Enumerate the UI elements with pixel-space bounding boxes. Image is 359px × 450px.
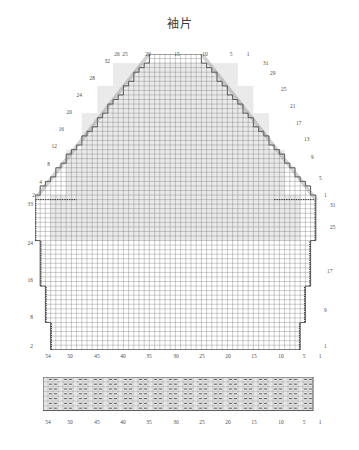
tick-right-lower-3: 17 bbox=[327, 269, 332, 274]
tick-top-1: 25 bbox=[122, 52, 127, 57]
tick-top-3: 15 bbox=[174, 52, 179, 57]
tick-bottom-main-9: 10 bbox=[278, 354, 283, 359]
tick-right-upper-7: 5 bbox=[319, 176, 322, 181]
tick-bottom-main-3: 40 bbox=[120, 354, 125, 359]
tick-bottom-rib-7: 20 bbox=[225, 420, 230, 425]
tick-bottom-main-8: 15 bbox=[251, 354, 256, 359]
tick-left-upper-7: 4 bbox=[39, 180, 42, 185]
tick-bottom-main-0: 54 bbox=[45, 354, 50, 359]
tick-right-upper-6: 9 bbox=[311, 155, 314, 160]
tick-right-lower-1: 31 bbox=[330, 203, 335, 208]
tick-left-upper-2: 24 bbox=[77, 93, 82, 98]
tick-bottom-main-11: 1 bbox=[319, 354, 322, 359]
tick-right-upper-4: 17 bbox=[296, 121, 301, 126]
tick-bottom-rib-10: 5 bbox=[303, 420, 306, 425]
tick-right-upper-5: 13 bbox=[304, 137, 309, 142]
page-title: 袖片 bbox=[0, 14, 359, 32]
tick-bottom-main-1: 50 bbox=[67, 354, 72, 359]
tick-left-lower-3: 8 bbox=[30, 315, 33, 320]
tick-left-upper-6: 8 bbox=[47, 162, 50, 167]
tick-right-lower-2: 25 bbox=[330, 225, 335, 230]
tick-left-upper-4: 16 bbox=[59, 127, 64, 132]
tick-left-lower-1: 24 bbox=[28, 241, 33, 246]
tick-left-upper-3: 20 bbox=[67, 110, 72, 115]
tick-right-upper-2: 25 bbox=[281, 87, 286, 92]
tick-bottom-rib-3: 40 bbox=[120, 420, 125, 425]
sleeve-pattern-chart-page: 袖片 2625201510513228242016128423129252117… bbox=[0, 0, 359, 450]
tick-bottom-main-10: 5 bbox=[303, 354, 306, 359]
tick-right-upper-0: 31 bbox=[263, 61, 268, 66]
tick-bottom-rib-2: 45 bbox=[94, 420, 99, 425]
tick-right-lower-0: 1 bbox=[324, 193, 327, 198]
tick-right-upper-1: 29 bbox=[270, 71, 275, 76]
tick-right-lower-4: 9 bbox=[324, 308, 327, 313]
tick-left-upper-5: 12 bbox=[52, 144, 57, 149]
tick-bottom-rib-9: 10 bbox=[278, 420, 283, 425]
tick-left-upper-8: 2 bbox=[32, 193, 35, 198]
tick-bottom-main-7: 20 bbox=[225, 354, 230, 359]
tick-bottom-rib-4: 35 bbox=[146, 420, 151, 425]
tick-left-lower-4: 2 bbox=[30, 344, 33, 349]
tick-right-lower-5: 1 bbox=[324, 344, 327, 349]
tick-bottom-rib-1: 50 bbox=[67, 420, 72, 425]
tick-top-0: 26 bbox=[114, 52, 119, 57]
tick-bottom-main-5: 30 bbox=[173, 354, 178, 359]
tick-left-lower-0: 33 bbox=[28, 202, 33, 207]
tick-bottom-main-2: 45 bbox=[94, 354, 99, 359]
tick-left-upper-0: 32 bbox=[105, 59, 110, 64]
tick-top-6: 1 bbox=[247, 52, 250, 57]
tick-bottom-rib-0: 54 bbox=[45, 420, 50, 425]
tick-bottom-rib-11: 1 bbox=[319, 420, 322, 425]
tick-bottom-main-4: 35 bbox=[146, 354, 151, 359]
tick-left-upper-1: 28 bbox=[90, 76, 95, 81]
tick-left-lower-2: 16 bbox=[28, 278, 33, 283]
tick-top-5: 5 bbox=[230, 52, 233, 57]
ribbing-grid bbox=[43, 377, 315, 417]
ribbing-grid-svg bbox=[43, 377, 315, 417]
tick-top-4: 10 bbox=[202, 52, 207, 57]
tick-top-2: 20 bbox=[145, 52, 150, 57]
tick-bottom-rib-5: 30 bbox=[173, 420, 178, 425]
tick-right-upper-3: 21 bbox=[290, 104, 295, 109]
tick-bottom-rib-8: 15 bbox=[251, 420, 256, 425]
tick-bottom-rib-6: 25 bbox=[199, 420, 204, 425]
tick-bottom-main-6: 25 bbox=[199, 354, 204, 359]
